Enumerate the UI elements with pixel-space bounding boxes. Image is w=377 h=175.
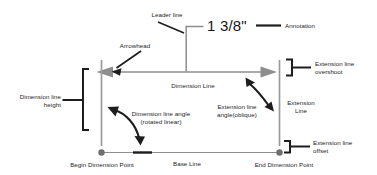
base-line-label: Base Line [157, 160, 217, 168]
annotation-label: Annotation [285, 22, 315, 30]
end-dimension-point-marker [276, 149, 282, 155]
extension-line-label-line2: Line [283, 107, 319, 115]
annotation-value: 1 3/8" [207, 18, 247, 33]
extension-line-offset-label-line2: offset [313, 147, 328, 155]
leader-line-label: Leader line [141, 11, 193, 19]
extension-line-overshoot-bracket [286, 60, 311, 76]
dimension-diagram: Leader line 1 3/8" Annotation Arrowhead … [0, 0, 377, 175]
extension-line-angle-label-line1: Extension line [206, 103, 268, 111]
arrowhead-label: Arrowhead [108, 42, 162, 50]
dimension-line-label: Dimension Line [158, 82, 228, 90]
leader-line-geometry [186, 27, 204, 72]
dimension-line-height-label-line1: Dimension line [3, 93, 61, 101]
begin-dimension-point-marker [98, 149, 104, 155]
dimension-line-angle-label-line2: (rotated linear) [122, 118, 200, 126]
leader-line-pointer [158, 22, 184, 33]
dimension-line-angle-label-line1: Dimension line angle [122, 110, 200, 118]
begin-dimension-point-label: Begin Dimension Point [42, 161, 162, 169]
extension-line-overshoot-label-line2: overshoot [315, 68, 343, 76]
extension-line-angle-label-line2: angle(oblique) [206, 111, 268, 119]
dimension-line-height-bracket [63, 69, 90, 130]
extension-line-offset-bracket [284, 141, 310, 153]
end-dimension-point-label: End Dimension Point [228, 161, 340, 169]
extension-line-overshoot-label-line1: Extension line [315, 60, 354, 68]
extension-line-label-line1: Extension [283, 99, 319, 107]
extension-line-offset-label-line1: Extension line [313, 139, 352, 147]
dimension-line-height-label-line2: height [3, 101, 61, 109]
